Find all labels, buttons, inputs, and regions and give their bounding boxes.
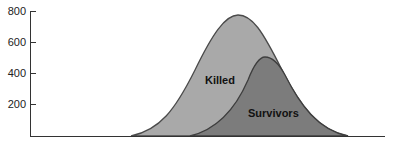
y-tick-label-200: 200 <box>8 98 26 110</box>
y-tick-label-400: 400 <box>8 67 26 79</box>
distribution-chart: 800 600 400 200 Killed Survivors <box>0 0 394 146</box>
survivors-label: Survivors <box>248 107 299 119</box>
y-tick-label-600: 600 <box>8 36 26 48</box>
y-tick-label-800: 800 <box>8 5 26 17</box>
killed-label: Killed <box>205 74 235 86</box>
